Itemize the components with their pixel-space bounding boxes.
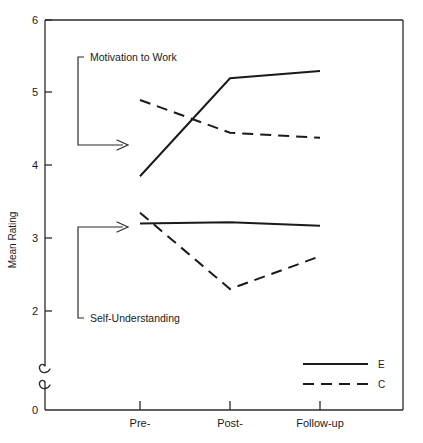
x-tick-label-post: Post- bbox=[217, 417, 243, 429]
x-tick-label-followup: Follow-up bbox=[296, 417, 344, 429]
y-tick-label-5: 5 bbox=[32, 86, 38, 98]
x-tick-label-pre: Pre- bbox=[130, 417, 151, 429]
annotation-self-understanding-label: Self-Understanding bbox=[90, 312, 180, 324]
y-tick-label-4: 4 bbox=[32, 159, 38, 171]
y-tick-label-2: 2 bbox=[32, 305, 38, 317]
y-tick-label-6: 6 bbox=[32, 14, 38, 26]
y-tick-label-0: 0 bbox=[32, 404, 38, 416]
y-axis-title: Mean Rating bbox=[7, 212, 18, 269]
legend-label-E: E bbox=[378, 359, 385, 370]
annotation-motivation-label: Motivation to Work bbox=[90, 51, 178, 63]
chart-figure: 6 5 4 3 2 0 Mean Rating Pre- Post- Follo… bbox=[0, 0, 423, 443]
y-tick-label-3: 3 bbox=[32, 232, 38, 244]
legend-label-C: C bbox=[378, 379, 385, 390]
